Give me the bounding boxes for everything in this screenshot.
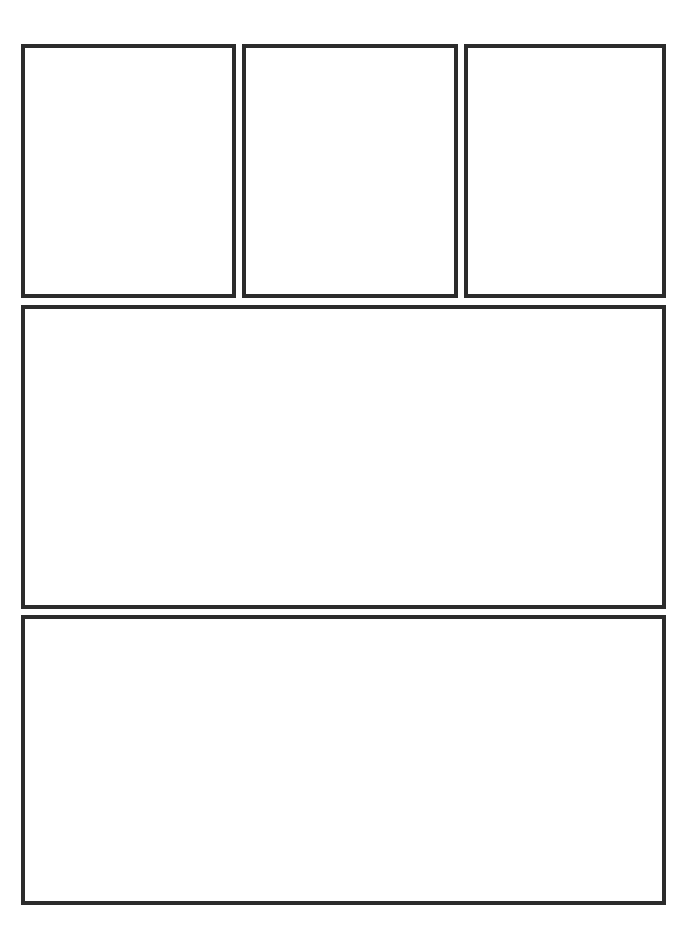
- panel-4: [21, 305, 666, 609]
- comic-page: [0, 0, 698, 943]
- panel-2: [242, 44, 458, 298]
- panel-5: [21, 615, 666, 905]
- panel-3-content: [468, 48, 662, 294]
- panel-5-content: [25, 619, 662, 901]
- panel-1-content: [25, 48, 232, 294]
- panel-4-content: [25, 309, 662, 605]
- panel-2-content: [246, 48, 454, 294]
- panel-3: [464, 44, 666, 298]
- panel-1: [21, 44, 236, 298]
